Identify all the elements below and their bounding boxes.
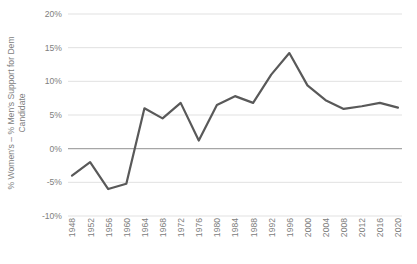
- x-tick-label-text: 1992: [267, 218, 277, 237]
- y-tick-label: -5%: [47, 177, 62, 187]
- y-tick-label: -10%: [42, 211, 62, 221]
- x-tick-label-text: 2016: [375, 218, 385, 237]
- x-tick-label-text: 1996: [285, 218, 295, 237]
- y-axis-title-line2: Candidate: [17, 36, 28, 189]
- x-tick-label-text: 1968: [158, 218, 168, 237]
- x-tick-label-text: 1980: [212, 218, 222, 237]
- x-tick-label-text: 1984: [230, 218, 240, 237]
- x-tick-label-text: 2008: [339, 218, 349, 237]
- plot-svg: [68, 14, 402, 216]
- y-tick-label: 10%: [45, 76, 62, 86]
- y-tick-label: 5%: [50, 110, 62, 120]
- x-tick-label-text: 1964: [140, 218, 150, 237]
- x-tick-label-text: 1956: [104, 218, 114, 237]
- y-axis-tick-labels: 20%15%10%5%0%-5%-10%: [30, 0, 66, 225]
- y-axis-title: % Women's – % Men's Support for Dem Cand…: [0, 0, 34, 225]
- x-tick-label-text: 1960: [122, 218, 132, 237]
- plot-area: [68, 14, 402, 216]
- data-series-gender-gap: [72, 53, 398, 189]
- x-tick-label-text: 2012: [357, 218, 367, 237]
- x-axis-tick-labels: 1948195219561960196419681972197619801984…: [68, 218, 402, 264]
- y-tick-label: 15%: [45, 43, 62, 53]
- line-chart: % Women's – % Men's Support for Dem Cand…: [0, 0, 417, 264]
- series-line: [72, 53, 398, 189]
- y-tick-label: 0%: [50, 144, 62, 154]
- x-tick-label-text: 1972: [176, 218, 186, 237]
- x-tick-label-text: 1988: [249, 218, 259, 237]
- x-tick-label-text: 2004: [321, 218, 331, 237]
- x-tick-label-text: 1976: [194, 218, 204, 237]
- x-tick-label-text: 1952: [86, 218, 96, 237]
- x-tick-label-text: 1948: [67, 218, 77, 237]
- y-tick-label: 20%: [45, 9, 62, 19]
- x-tick-label-text: 2020: [393, 218, 403, 237]
- x-tick-label-text: 2000: [303, 218, 313, 237]
- y-axis-title-line1: % Women's – % Men's Support for Dem: [6, 36, 16, 189]
